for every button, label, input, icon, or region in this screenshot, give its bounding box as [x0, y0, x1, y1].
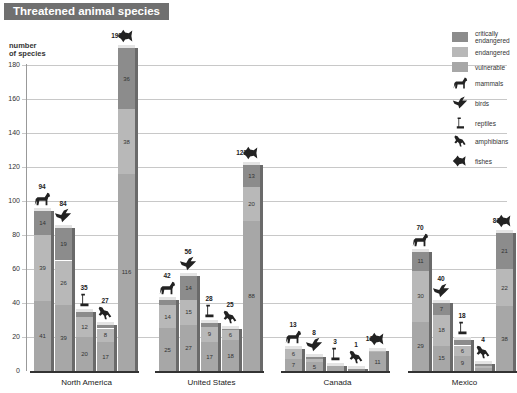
segment-crit: 14 [34, 211, 51, 235]
total-label: 1 [344, 341, 368, 348]
bar-mammals: 2514 [159, 300, 176, 371]
reptile-icon [452, 116, 468, 130]
fish-icon [452, 154, 468, 168]
gridline [22, 235, 507, 236]
segment-end: 39 [34, 235, 51, 301]
segment-crit [159, 300, 176, 305]
y-tick-label: 40 [4, 299, 20, 306]
bar-shadow [218, 323, 221, 371]
segment-vul: 11 [369, 352, 386, 371]
y-axis-label-line2: of species [9, 50, 46, 58]
bar-reptiles: 96 [454, 340, 471, 371]
segment-vul: 88 [243, 221, 260, 371]
reptile-icon [200, 303, 218, 319]
segment-vul: 39 [55, 305, 72, 371]
segment-vul: 116 [118, 174, 135, 371]
segment-vul: 9 [454, 356, 471, 371]
segment-vul [475, 368, 492, 371]
segment-vul: 41 [34, 301, 51, 371]
segment-vul: 25 [159, 328, 176, 371]
bar-birds: 392619 [55, 228, 72, 371]
bar-top [201, 320, 218, 323]
bar-top [243, 162, 260, 165]
legend-label: reptiles [475, 120, 496, 127]
group-baseline [281, 371, 390, 373]
total-label: 40 [429, 275, 453, 282]
amphibian-icon [452, 134, 468, 148]
segment-end [475, 366, 492, 368]
bar-top [369, 348, 386, 351]
total-label: 190 [102, 32, 122, 39]
x-category-label: North America [42, 378, 132, 387]
segment-crit: 14 [180, 276, 197, 300]
gridline [22, 65, 507, 66]
segment-crit [76, 312, 93, 317]
bar-shadow [176, 300, 179, 371]
segment-vul: 17 [201, 342, 218, 371]
total-label: 121 [227, 149, 247, 156]
segment-crit: 11 [412, 252, 429, 271]
segment-end: 26 [55, 261, 72, 305]
bar-amphibians: 178 [97, 325, 114, 371]
segment-crit [201, 323, 218, 326]
bar-mammals: 293011 [412, 252, 429, 371]
legend-label: critically endangered [475, 30, 511, 44]
bird-icon [432, 283, 450, 299]
gridline [22, 269, 507, 270]
bar-shadow [51, 211, 54, 371]
bar-shadow [197, 276, 200, 371]
bird-icon [54, 208, 72, 224]
legend-vulnerable: vulnerable [452, 62, 505, 72]
amphibian-icon [96, 305, 114, 321]
reptile-icon [75, 292, 93, 308]
bar-top [285, 346, 302, 349]
bar-reptiles [327, 366, 344, 371]
segment-end [306, 359, 323, 362]
bar-reptiles: 179 [201, 323, 218, 371]
total-label: 27 [93, 297, 117, 304]
bar-amphibians [475, 364, 492, 371]
total-label: 25 [218, 301, 242, 308]
bar-top [306, 354, 323, 357]
bar-shadow [365, 369, 368, 371]
legend-label: endangered [475, 49, 510, 56]
bar-shadow [260, 165, 263, 371]
segment-crit [348, 369, 365, 371]
bar-birds: 15187 [433, 303, 450, 371]
segment-vul: 15 [433, 346, 450, 372]
bar-birds: 271514 [180, 276, 197, 371]
y-tick-label: 60 [4, 265, 20, 272]
legend-fishes: fishes [452, 154, 492, 168]
segment-crit [475, 364, 492, 366]
bar-birds: 5 [306, 357, 323, 371]
segment-end: 6 [285, 349, 302, 359]
segment-end [369, 351, 386, 353]
bar-top [34, 208, 51, 211]
legend-endangered: endangered [452, 47, 510, 57]
segment-crit: 7 [433, 303, 450, 315]
mammal-icon [33, 191, 51, 207]
amphibian-icon [221, 309, 239, 325]
x-category-label: United States [167, 378, 257, 387]
gridline [22, 99, 507, 100]
segment-end: 30 [412, 271, 429, 322]
swatch-critically-endangered [452, 32, 468, 42]
total-label: 12 [353, 335, 373, 342]
bar-reptiles: 2012 [76, 312, 93, 372]
y-tick-label: 120 [4, 163, 20, 170]
bird-icon [305, 337, 323, 353]
group-baseline [30, 371, 139, 373]
bar-shadow [513, 233, 516, 371]
segment-vul: 27 [180, 325, 197, 371]
reptile-icon [453, 320, 471, 336]
group-baseline [155, 371, 264, 373]
segment-end: 6 [454, 346, 471, 356]
bar-fishes: 382221 [496, 233, 513, 371]
bar-amphibians: 186 [222, 329, 239, 372]
bird-icon [452, 96, 468, 110]
bar-shadow [492, 364, 495, 371]
segment-crit: 36 [118, 48, 135, 109]
x-category-label: Mexico [420, 378, 510, 387]
segment-end: 14 [159, 305, 176, 329]
gridline [22, 201, 507, 202]
